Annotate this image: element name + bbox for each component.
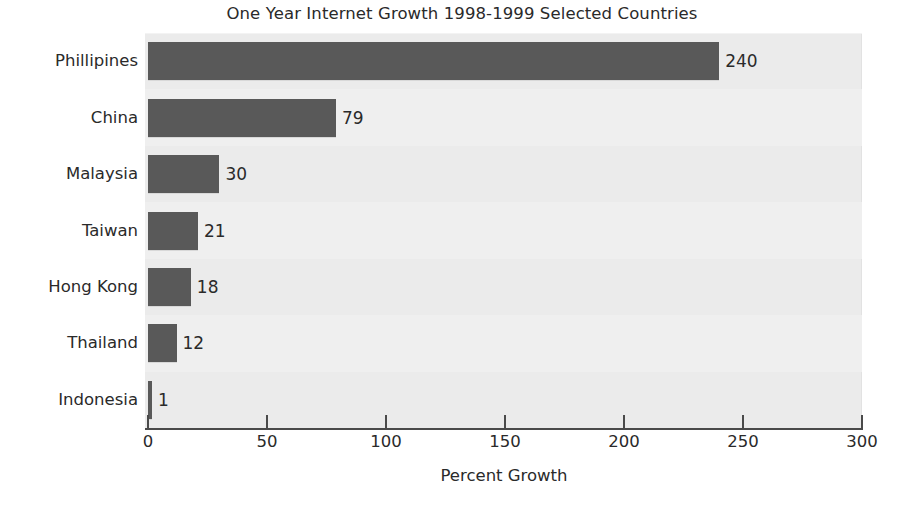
bar-value-label: 18: [191, 277, 219, 297]
chart-title: One Year Internet Growth 1998-1999 Selec…: [0, 4, 924, 23]
x-axis-tick-label: 250: [727, 432, 759, 451]
bar-row: 30: [148, 155, 862, 193]
plot-area: 24079302118121: [145, 33, 862, 428]
x-axis-tick: [861, 415, 863, 428]
x-axis-tick-label: 300: [846, 432, 878, 451]
x-axis-tick: [504, 415, 506, 428]
bar-row: 12: [148, 324, 862, 362]
bar-row: 21: [148, 212, 862, 250]
x-axis-tick-label: 100: [370, 432, 402, 451]
x-axis-tick-label: 50: [257, 432, 278, 451]
bar[interactable]: [148, 268, 191, 306]
bar-row: 1: [148, 381, 862, 419]
x-axis-tick-label: 0: [143, 432, 154, 451]
bar-value-label: 30: [219, 164, 247, 184]
bar[interactable]: [148, 155, 219, 193]
x-axis-line: [145, 428, 863, 430]
x-axis-tick: [385, 415, 387, 428]
bar[interactable]: [148, 42, 719, 80]
y-axis-tick-label: China: [0, 99, 138, 137]
x-axis-tick-label: 200: [608, 432, 640, 451]
x-axis-tick: [147, 415, 149, 428]
bar[interactable]: [148, 324, 177, 362]
bar-value-label: 21: [198, 221, 226, 241]
bar-value-label: 240: [719, 51, 757, 71]
y-axis-tick-label: Phillipines: [0, 42, 138, 80]
x-axis-tick: [742, 415, 744, 428]
bar-row: 79: [148, 99, 862, 137]
bar-chart-figure: One Year Internet Growth 1998-1999 Selec…: [0, 0, 924, 524]
y-axis-tick-label: Hong Kong: [0, 268, 138, 306]
bar-value-label: 1: [152, 390, 169, 410]
x-axis-title: Percent Growth: [145, 466, 863, 485]
bar[interactable]: [148, 212, 198, 250]
y-axis-tick-label: Taiwan: [0, 212, 138, 250]
bar[interactable]: [148, 99, 336, 137]
y-axis-tick-label: Thailand: [0, 324, 138, 362]
bar-value-label: 12: [177, 333, 205, 353]
x-axis-tick-label: 150: [489, 432, 521, 451]
bar-value-label: 79: [336, 108, 364, 128]
y-axis-tick-label: Malaysia: [0, 155, 138, 193]
bar-row: 18: [148, 268, 862, 306]
y-axis-tick-label: Indonesia: [0, 381, 138, 419]
x-axis-tick: [623, 415, 625, 428]
x-axis-tick: [266, 415, 268, 428]
y-axis-category-labels: PhillipinesChinaMalaysiaTaiwanHong KongT…: [0, 33, 138, 428]
bar-row: 240: [148, 42, 862, 80]
